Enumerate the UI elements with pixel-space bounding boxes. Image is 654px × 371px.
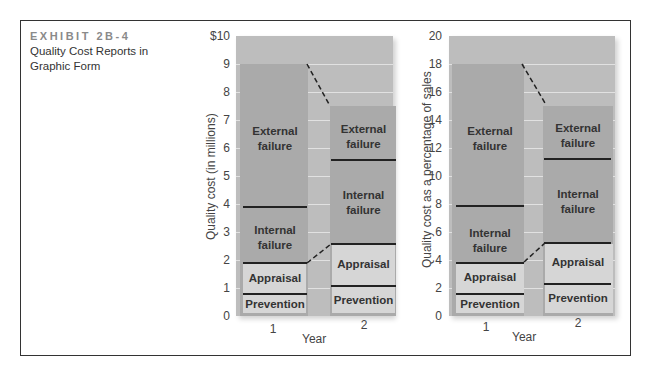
label-internal-failure-y1: Internalfailure xyxy=(456,226,524,256)
y-axis-label: Quality cost as a percentage of sales xyxy=(420,71,434,268)
x-axis-label: Year xyxy=(512,330,536,344)
x-tick: 2 xyxy=(568,316,588,330)
label-appraisal-y1: Appraisal xyxy=(456,270,524,285)
y-tick: 2 xyxy=(418,281,442,295)
label-prevention-y1: Prevention xyxy=(456,297,524,312)
x-tick: 1 xyxy=(476,320,496,334)
label-appraisal-y2: Appraisal xyxy=(544,255,612,270)
label-prevention-y2: Prevention xyxy=(544,291,612,306)
y-tick: 18 xyxy=(418,57,442,71)
label-internal-failure-y2: Internalfailure xyxy=(544,187,612,217)
trend-dashes-right xyxy=(0,0,654,371)
y-tick: 20 xyxy=(418,29,442,43)
y-tick: 0 xyxy=(418,309,442,323)
label-external-failure-y2: Externalfailure xyxy=(544,121,612,151)
label-external-failure-y1: Externalfailure xyxy=(456,124,524,154)
